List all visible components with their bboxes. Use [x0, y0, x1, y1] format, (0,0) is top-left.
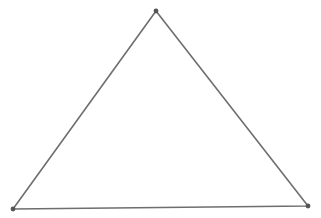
triangle-outline [13, 11, 308, 209]
vertex-bottom-right [306, 204, 311, 209]
vertex-bottom-left [11, 207, 16, 212]
vertex-top [154, 9, 159, 14]
triangle-diagram [0, 0, 321, 218]
